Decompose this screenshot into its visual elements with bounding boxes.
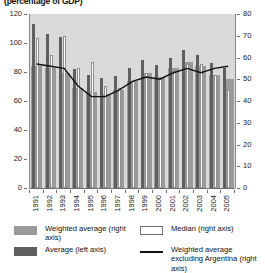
x-axis-tick [166, 190, 167, 193]
legend-swatch-median-icon [140, 226, 163, 235]
right-axis-tick-label: 20 [243, 141, 251, 149]
left-axis-tick-label: 80 [14, 68, 22, 76]
x-axis-tick-label: 2005 [223, 195, 231, 212]
x-axis-tick [179, 190, 180, 193]
left-axis-tick [24, 188, 27, 189]
x-axis-tick-label: 1991 [32, 195, 40, 212]
x-axis-tick [125, 190, 126, 193]
x-axis-tick [43, 190, 44, 193]
x-axis-tick [70, 190, 71, 193]
x-axis-tick-label: 2000 [155, 195, 163, 212]
left-axis-tick [24, 130, 27, 131]
legend-label-weighted-average-ex-argentina: Weighted average excluding Argentina (ri… [171, 245, 257, 273]
x-axis-tick [56, 190, 57, 193]
left-axis-tick-label: 60 [14, 97, 22, 105]
x-axis-tick-label: 1997 [114, 195, 122, 212]
left-axis-tick [24, 43, 27, 44]
x-axis-tick [138, 190, 139, 193]
right-axis-tick [237, 188, 240, 189]
x-axis-tick [29, 190, 30, 193]
chart-subtitle: (percentage of GDP) [4, 0, 82, 6]
x-axis-tick [97, 190, 98, 193]
right-axis-tick [237, 14, 240, 15]
legend-label-median: Median (right axis) [171, 224, 233, 233]
right-axis-tick [237, 58, 240, 59]
x-axis-tick-label: 1993 [59, 195, 67, 212]
legend-swatch-line-icon [140, 251, 163, 253]
right-axis-tick-label: 60 [243, 54, 251, 62]
right-axis-tick [237, 123, 240, 124]
right-axis-tick-label: 40 [243, 97, 251, 105]
chart-legend: Weighted average (right axis) Average (l… [14, 224, 259, 272]
x-axis-tick [152, 190, 153, 193]
legend-item-median: Median (right axis) [140, 224, 260, 235]
left-axis-tick [24, 14, 27, 15]
legend-item-weighted-average-ex-argentina: Weighted average excluding Argentina (ri… [140, 245, 260, 273]
x-axis: 1991199219931994199519961997199819992000… [29, 190, 234, 224]
left-axis-tick-label: 40 [14, 126, 22, 134]
x-axis-tick [193, 190, 194, 193]
right-axis-tick-label: 30 [243, 119, 251, 127]
left-axis-tick-label: 100 [9, 39, 22, 47]
plot-area [29, 14, 236, 188]
x-axis-tick-label: 1995 [87, 195, 95, 212]
x-axis-tick-label: 2001 [169, 195, 177, 212]
right-axis-tick [237, 79, 240, 80]
legend-swatch-weighted-average-icon [14, 226, 37, 235]
x-axis-tick [111, 190, 112, 193]
left-axis-tick [24, 101, 27, 102]
x-axis-tick [84, 190, 85, 193]
x-axis-tick-label: 2002 [182, 195, 190, 212]
left-axis-tick-label: 20 [14, 155, 22, 163]
right-axis-tick [237, 166, 240, 167]
x-axis-tick-label: 1996 [100, 195, 108, 212]
chart-figure: (percentage of GDP) 020406080100120 0102… [0, 0, 265, 273]
x-axis-tick-label: 1992 [46, 195, 54, 212]
right-axis-tick [237, 145, 240, 146]
legend-label-weighted-average: Weighted average (right axis) [45, 224, 131, 243]
right-axis-tick-label: 10 [243, 163, 251, 171]
right-y-axis: 01020304050607080 [237, 14, 263, 188]
left-axis-tick [24, 72, 27, 73]
axis-baseline [29, 188, 235, 189]
left-axis-tick [24, 159, 27, 160]
x-axis-tick [234, 190, 235, 193]
left-axis-tick-label: 120 [9, 10, 22, 18]
left-axis-tick-label: 0 [18, 184, 22, 192]
right-axis-tick [237, 101, 240, 102]
x-axis-tick [220, 190, 221, 193]
right-axis-tick [237, 36, 240, 37]
legend-item-weighted-average: Weighted average (right axis) [14, 224, 132, 243]
right-axis-tick-label: 0 [243, 184, 247, 192]
left-y-axis: 020406080100120 [0, 14, 27, 188]
legend-swatch-average-icon [14, 247, 37, 256]
x-axis-tick-label: 1994 [73, 195, 81, 212]
x-axis-tick-label: 1999 [141, 195, 149, 212]
x-axis-tick-label: 2003 [196, 195, 204, 212]
x-axis-tick [207, 190, 208, 193]
right-axis-tick-label: 80 [243, 10, 251, 18]
weighted-average-ex-argentina-line [30, 14, 235, 188]
legend-label-average: Average (left axis) [45, 245, 106, 254]
right-axis-tick-label: 70 [243, 32, 251, 40]
legend-item-average: Average (left axis) [14, 245, 132, 256]
x-axis-tick-label: 1998 [128, 195, 136, 212]
x-axis-tick-label: 2004 [210, 195, 218, 212]
right-axis-tick-label: 50 [243, 76, 251, 84]
